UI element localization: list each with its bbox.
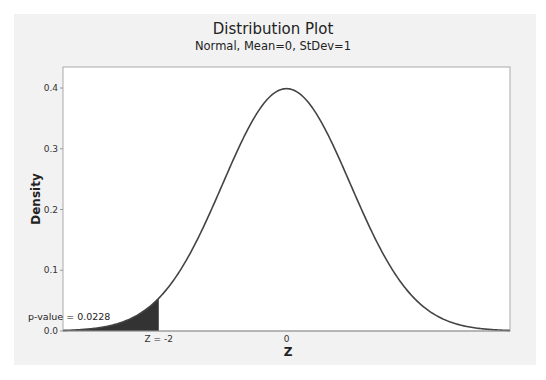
plot-area bbox=[63, 67, 510, 331]
y-tick-label: 0.3 bbox=[44, 144, 58, 154]
x-axis-label: Z bbox=[284, 345, 293, 359]
y-axis-label: Density bbox=[29, 173, 43, 225]
y-tick-label: 0.4 bbox=[44, 83, 59, 93]
x-tick-label: Z = -2 bbox=[145, 334, 173, 344]
p-value-annotation: p-value = 0.0228 bbox=[28, 311, 110, 322]
y-tick-label: 0.1 bbox=[44, 265, 58, 275]
y-tick-label: 0.2 bbox=[44, 205, 58, 215]
x-tick-label: 0 bbox=[284, 334, 290, 344]
y-axis-ticks: 0.00.10.20.30.4 bbox=[44, 83, 63, 336]
x-axis-ticks: Z = -20 bbox=[145, 334, 290, 344]
y-tick-label: 0.0 bbox=[44, 326, 59, 336]
chart-svg: 0.00.10.20.30.4 Z = -20 Density Z p-valu… bbox=[0, 0, 546, 380]
